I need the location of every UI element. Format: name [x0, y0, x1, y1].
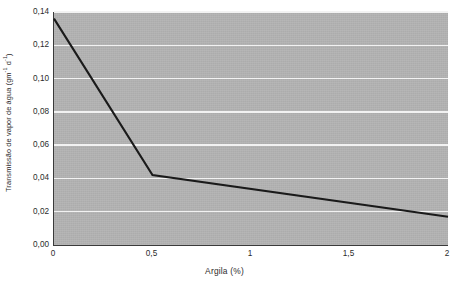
y-axis-ticks: 0,000,020,040,060,080,100,120,14 — [0, 0, 53, 286]
plot-area — [53, 12, 448, 246]
x-tick-label: 2 — [445, 250, 450, 258]
y-tick-label: 0,14 — [7, 8, 53, 16]
x-tick-label: 0,5 — [146, 250, 157, 258]
y-tick-label: 0,02 — [7, 208, 53, 216]
y-tick-label: 0,10 — [7, 74, 53, 82]
y-tick-label: 0,08 — [7, 108, 53, 116]
y-tick-label: 0,12 — [7, 41, 53, 49]
x-tick-label: 0 — [51, 250, 56, 258]
data-series-line — [54, 12, 448, 245]
x-axis-title: Argila (%) — [0, 266, 459, 276]
chart-figure: Transmissão de vapor de água (gm-1 d-1) … — [0, 0, 459, 286]
y-tick-label: 0,04 — [7, 174, 53, 182]
x-tick-label: 1,5 — [343, 250, 354, 258]
x-tick-label: 1 — [248, 250, 253, 258]
y-tick-label: 0,06 — [7, 141, 53, 149]
x-axis-title-text: Argila (%) — [205, 266, 244, 276]
y-tick-label: 0,00 — [7, 241, 53, 249]
